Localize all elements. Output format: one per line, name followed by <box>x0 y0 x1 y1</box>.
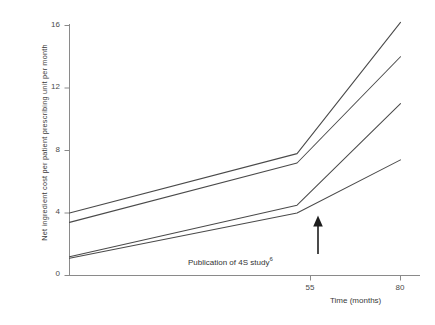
y-axis-title: Net ingredient cost per patient prescrib… <box>40 18 49 268</box>
y-tick-label-8: 8 <box>38 145 60 154</box>
annotation-arrow <box>313 216 323 255</box>
data-series-group <box>70 22 401 258</box>
x-axis-title: Time (months) <box>330 296 381 305</box>
y-tick-label-12: 12 <box>38 82 60 91</box>
x-tick-label-80: 80 <box>387 283 413 292</box>
data-line-series-1 <box>70 22 401 213</box>
y-tick-marks <box>65 26 70 276</box>
chart-figure: Net ingredient cost per patient prescrib… <box>0 0 435 325</box>
x-tick-label-55: 55 <box>297 283 323 292</box>
chart-canvas <box>0 0 435 325</box>
data-line-series-2 <box>70 57 401 223</box>
y-tick-label-16: 16 <box>38 20 60 29</box>
y-tick-label-0: 0 <box>38 269 60 278</box>
annotation-label: Publication of 4S study6 <box>188 258 273 267</box>
annotation-superscript: 6 <box>269 256 272 262</box>
annotation-text: Publication of 4S study <box>188 258 269 267</box>
data-line-series-3 <box>70 104 401 257</box>
x-tick-marks <box>311 276 401 281</box>
y-tick-label-4: 4 <box>38 207 60 216</box>
